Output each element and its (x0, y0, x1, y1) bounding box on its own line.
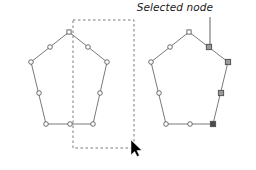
left-pentagon-group[interactable] (29, 30, 110, 126)
selection-marquee[interactable] (73, 20, 134, 148)
path-node-m-top-right[interactable] (86, 45, 91, 50)
path-node-m-top-left[interactable] (168, 45, 173, 50)
right-pentagon-path[interactable] (151, 32, 228, 124)
illustration-canvas: Selected node (0, 0, 256, 170)
left-pentagon-nodes[interactable] (29, 30, 110, 126)
path-node-v-right-upper-selected[interactable] (225, 59, 230, 64)
path-node-m-right-selected[interactable] (218, 90, 223, 95)
path-node-v-right-upper[interactable] (105, 60, 110, 65)
path-node-m-right[interactable] (98, 91, 103, 96)
path-node-v-left-upper[interactable] (149, 60, 154, 65)
path-node-v-left-upper[interactable] (29, 60, 34, 65)
path-node-m-left[interactable] (37, 91, 42, 96)
path-node-m-top-right-selected[interactable] (206, 44, 211, 49)
path-node-v-right-lower-active[interactable] (210, 121, 215, 126)
path-node-m-top-left[interactable] (48, 45, 53, 50)
path-node-v-left-lower[interactable] (44, 122, 49, 127)
right-pentagon-group[interactable] (149, 30, 231, 127)
path-node-v-right-lower[interactable] (91, 122, 96, 127)
left-pentagon-path[interactable] (31, 32, 107, 124)
selected-node-label: Selected node (137, 1, 213, 13)
path-node-m-bottom[interactable] (188, 122, 193, 127)
path-node-v-left-lower[interactable] (164, 122, 169, 127)
right-pentagon-nodes[interactable] (149, 30, 231, 127)
path-node-m-left[interactable] (157, 91, 162, 96)
path-node-v-top[interactable] (67, 30, 71, 34)
path-node-v-top[interactable] (187, 30, 191, 34)
diagram-svg: Selected node (0, 0, 256, 170)
path-node-m-bottom[interactable] (68, 122, 73, 127)
mouse-cursor-icon (131, 140, 142, 157)
